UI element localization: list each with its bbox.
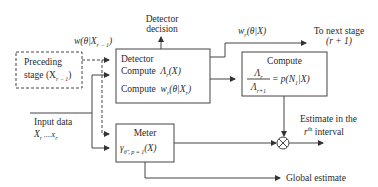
input-to-detector xyxy=(92,75,109,113)
compute-rhs: = p(N1|X) xyxy=(272,74,310,88)
compute-numerator: Λr xyxy=(247,68,270,82)
compute-denominator: Λr+1 xyxy=(247,82,270,96)
preceding-line2: stage (Xr − 1) xyxy=(24,70,71,84)
to-next-stage-line xyxy=(210,43,306,57)
detector-row-weight: Compute wr(θ|Xr) xyxy=(121,84,191,98)
next-stage-label: To next stage (r + 1) xyxy=(306,26,372,46)
meter-title: Meter xyxy=(116,128,174,138)
detector-row-lambda: Compute Λr(X) xyxy=(121,66,191,80)
detector-decision-label: Detector decision xyxy=(140,14,184,34)
global-estimate-label: Global estimate xyxy=(286,173,346,183)
dashed-feed-meter xyxy=(102,60,109,134)
meter-expression: γθ̂ , p = 1(X) xyxy=(120,143,156,157)
feedback-weight-label: w(θ|Xr − 1) xyxy=(74,36,112,50)
output-weight-label: wr(θ|X) xyxy=(238,26,266,40)
input-to-meter xyxy=(92,113,109,148)
global-estimate-line xyxy=(145,162,280,178)
input-data-label: Input data Xr ....Xr xyxy=(34,117,72,143)
preceding-stage-label: Preceding stage (Xr − 1) xyxy=(24,57,71,84)
compute-title: Compute xyxy=(242,56,327,66)
estimate-label: Estimate in the rth interval xyxy=(300,114,357,137)
detector-title: Detector xyxy=(121,54,191,64)
preceding-line1: Preceding xyxy=(24,57,71,67)
detector-box-text: Detector Compute Λr(X) Compute wr(θ|Xr) xyxy=(121,54,191,98)
